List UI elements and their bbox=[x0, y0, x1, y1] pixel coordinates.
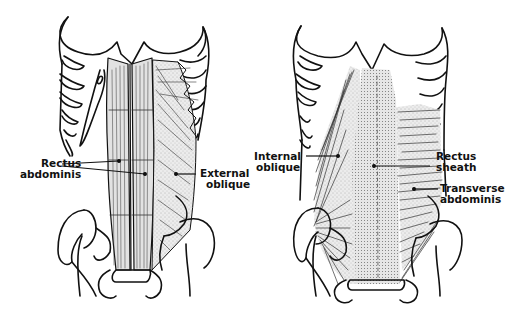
label-transverse-abdominis: Transverse abdominis bbox=[440, 183, 505, 205]
label-rectus-sheath: Rectus sheath bbox=[436, 151, 476, 173]
rectus-abdominis-left bbox=[107, 58, 131, 270]
rectus-sheath bbox=[352, 68, 400, 284]
left-rib-cage bbox=[60, 17, 206, 64]
label-rectus-abdominis: Rectus abdominis bbox=[20, 158, 81, 180]
left-pelvis bbox=[58, 210, 84, 264]
label-internal-oblique: Internal oblique bbox=[254, 151, 301, 173]
external-oblique bbox=[152, 60, 196, 270]
label-external-oblique: External oblique bbox=[200, 168, 250, 190]
rectus-abdominis-right bbox=[132, 58, 154, 270]
left-panel bbox=[58, 17, 214, 298]
